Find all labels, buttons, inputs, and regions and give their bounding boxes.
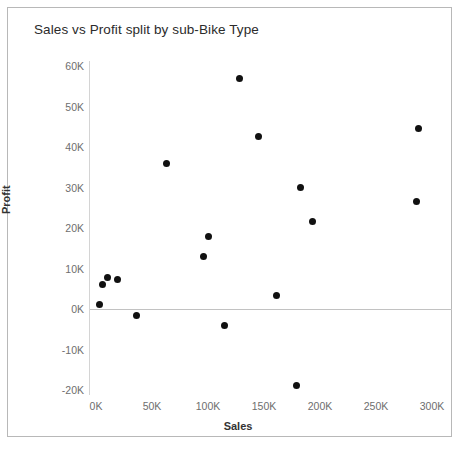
x-tick-label: 150K: [252, 400, 277, 412]
scatter-plot-area[interactable]: [89, 58, 453, 395]
visualization-panel: Sales vs Profit split by sub-Bike Type 6…: [7, 7, 452, 437]
data-point[interactable]: [415, 125, 422, 132]
data-point[interactable]: [163, 160, 170, 167]
data-point[interactable]: [200, 253, 207, 260]
x-tick-label: 100K: [196, 400, 221, 412]
y-axis-title: Profit: [0, 185, 12, 214]
data-point[interactable]: [99, 281, 106, 288]
data-point[interactable]: [293, 382, 300, 389]
data-point[interactable]: [96, 301, 103, 308]
data-point[interactable]: [221, 322, 228, 329]
data-point[interactable]: [114, 276, 121, 283]
data-point[interactable]: [255, 133, 262, 140]
data-point[interactable]: [273, 292, 280, 299]
data-point[interactable]: [133, 312, 140, 319]
data-point[interactable]: [413, 198, 420, 205]
x-tick-label: 200K: [308, 400, 333, 412]
x-tick-label: 0K: [90, 400, 103, 412]
x-tick-label: 300K: [420, 400, 445, 412]
x-tick-label: 250K: [364, 400, 389, 412]
data-point[interactable]: [104, 274, 111, 281]
data-point[interactable]: [205, 233, 212, 240]
x-axis-title: Sales: [8, 420, 460, 432]
data-point[interactable]: [309, 218, 316, 225]
x-tick-label: 50K: [143, 400, 162, 412]
data-point[interactable]: [236, 75, 243, 82]
data-point[interactable]: [297, 184, 304, 191]
